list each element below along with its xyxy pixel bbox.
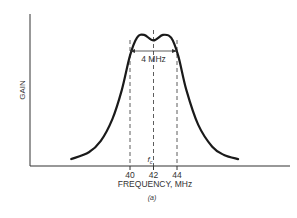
x-axis-label: FREQUENCY, MHz (118, 179, 192, 189)
bandwidth-label: 4 MHz (141, 54, 166, 64)
chart: 4 MHz 404244 fc GAIN FREQUENCY, MHz (a) (0, 0, 297, 218)
center-frequency-label: fc (148, 155, 153, 165)
y-axis-label: GAIN (18, 80, 27, 100)
bandwidth-marker: 4 MHz (130, 49, 177, 64)
figure-caption: (a) (148, 194, 157, 202)
